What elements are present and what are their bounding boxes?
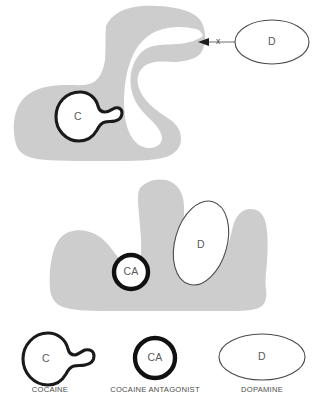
bottom-panel: CA D <box>50 179 268 311</box>
block-marker-x: x <box>216 36 221 46</box>
legend-antagonist-glyph: CA <box>147 351 162 363</box>
legend-item-cocaine: C COCAINE <box>23 333 94 394</box>
bottom-dopamine-glyph: D <box>197 238 205 250</box>
legend-dopamine-glyph: D <box>258 350 266 362</box>
top-panel: C x D <box>14 6 309 161</box>
diagram-canvas: C x D CA D <box>0 0 315 400</box>
legend-cocaine-glyph: C <box>42 352 50 364</box>
bottom-receptor-body <box>50 179 268 311</box>
legend-item-dopamine: D DOPAMINE <box>219 334 305 394</box>
legend-cocaine-caption: COCAINE <box>32 385 68 394</box>
top-dopamine-glyph: D <box>268 35 276 47</box>
bottom-antagonist-glyph: CA <box>123 265 138 277</box>
figure-legend: C COCAINE CA COCAINE ANTAGONIST D DOPAMI… <box>23 333 305 394</box>
diagram-root: C x D CA D <box>0 0 315 400</box>
top-cocaine-glyph: C <box>74 110 82 122</box>
legend-item-cocaine-antagonist: CA COCAINE ANTAGONIST <box>110 338 200 394</box>
legend-dopamine-caption: DOPAMINE <box>241 385 283 394</box>
legend-cocaine-icon <box>23 333 94 385</box>
legend-antagonist-caption: COCAINE ANTAGONIST <box>110 385 200 394</box>
